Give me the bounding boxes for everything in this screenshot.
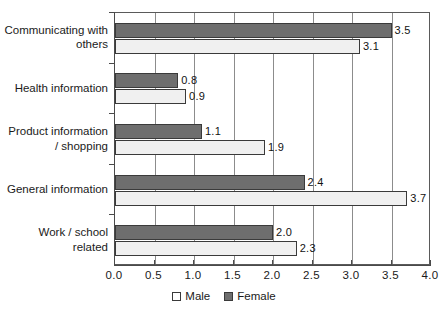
- y-axis-tick: [109, 214, 114, 215]
- x-axis-tick-label: 0.5: [145, 269, 162, 281]
- legend-swatch-male-icon: [172, 292, 181, 301]
- x-axis-tick-label: 2.5: [303, 269, 320, 281]
- bar-male: [115, 89, 186, 104]
- x-axis-tick: [312, 260, 313, 266]
- legend-item-female: Female: [224, 290, 275, 302]
- x-axis-tick: [430, 260, 431, 266]
- category-label: General information: [0, 182, 108, 197]
- category-label: Product information/ shopping: [0, 124, 108, 153]
- bar-male: [115, 241, 297, 256]
- x-axis-tick-label: 0.0: [106, 269, 123, 281]
- bar-female: [115, 73, 178, 88]
- bar-value-label: 2.3: [300, 241, 316, 256]
- x-axis-tick-label: 3.5: [382, 269, 399, 281]
- x-axis-tick: [272, 260, 273, 266]
- y-axis-tick: [109, 12, 114, 13]
- bar-value-label: 3.7: [410, 191, 426, 206]
- legend-label: Male: [185, 290, 210, 302]
- y-axis-line: [114, 12, 115, 265]
- bar-value-label: 1.1: [205, 124, 221, 139]
- x-axis-tick-label: 2.0: [264, 269, 281, 281]
- bar-male: [115, 39, 360, 54]
- gridline: [392, 13, 393, 264]
- legend-label: Female: [237, 290, 275, 302]
- bar-value-label: 3.1: [363, 39, 379, 54]
- y-axis-tick: [109, 113, 114, 114]
- bar-value-label: 2.4: [308, 175, 324, 190]
- x-axis-tick: [233, 260, 234, 266]
- bar-female: [115, 23, 392, 38]
- bar-female: [115, 124, 202, 139]
- plot-area: 3.53.10.80.91.11.92.43.72.02.3: [114, 12, 430, 265]
- x-axis-tick: [114, 260, 115, 266]
- bar-female: [115, 225, 273, 240]
- x-axis-tick: [154, 260, 155, 266]
- legend-swatch-female-icon: [224, 292, 233, 301]
- y-axis-tick: [109, 63, 114, 64]
- category-label: Health information: [0, 81, 108, 96]
- category-label: Communicating withothers: [0, 23, 108, 52]
- bar-value-label: 2.0: [276, 225, 292, 240]
- bar-value-label: 0.9: [189, 89, 205, 104]
- bar-male: [115, 140, 265, 155]
- x-axis-tick-label: 1.0: [185, 269, 202, 281]
- bar-value-label: 0.8: [181, 73, 197, 88]
- y-axis-tick: [109, 164, 114, 165]
- x-axis-tick-label: 1.5: [224, 269, 241, 281]
- bar-value-label: 3.5: [395, 23, 411, 38]
- x-axis-tick-label: 3.0: [343, 269, 360, 281]
- category-label: Work / schoolrelated: [0, 225, 108, 254]
- chart-legend: MaleFemale: [0, 290, 448, 302]
- x-axis-tick-label: 4.0: [422, 269, 439, 281]
- x-axis-tick: [351, 260, 352, 266]
- bar-chart: 3.53.10.80.91.11.92.43.72.02.3 0.00.51.0…: [0, 0, 448, 315]
- bar-female: [115, 175, 305, 190]
- legend-item-male: Male: [172, 290, 210, 302]
- x-axis-tick: [391, 260, 392, 266]
- bar-male: [115, 191, 407, 206]
- x-axis-tick: [193, 260, 194, 266]
- bar-value-label: 1.9: [268, 140, 284, 155]
